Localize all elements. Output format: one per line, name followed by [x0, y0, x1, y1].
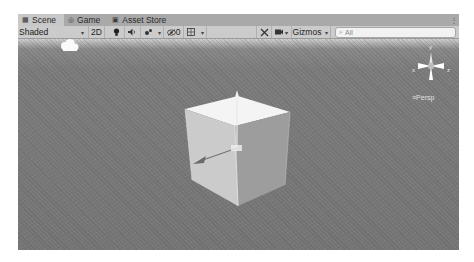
tools-button[interactable] [256, 26, 272, 38]
effects-dropdown[interactable]: ▾ [155, 26, 164, 38]
tab-game[interactable]: ◎ Game [64, 14, 108, 26]
scene-toolbar: Shaded ▾ 2D ▾ [18, 26, 459, 39]
chevron-down-icon: ▾ [325, 29, 328, 36]
grid-dropdown[interactable]: ▾ [198, 26, 207, 38]
scene-search-input[interactable]: ⌕ All [335, 27, 456, 38]
2d-toggle-button[interactable]: 2D [89, 26, 105, 38]
chevron-down-icon: ▾ [201, 29, 204, 36]
effects-icon [144, 28, 153, 36]
audio-toggle-button[interactable] [125, 26, 141, 38]
tab-asset-store[interactable]: ▣ Asset Store [108, 14, 174, 26]
search-icon: ⌕ [339, 28, 343, 36]
game-icon: ◎ [68, 16, 74, 24]
draw-mode-dropdown[interactable]: Shaded ▾ [18, 26, 89, 38]
kebab-menu-icon: ⋮ [450, 16, 458, 25]
scene-viewport[interactable]: y x z ≡Persp [18, 39, 459, 250]
tab-scene[interactable]: ▦ Scene [18, 14, 64, 26]
chevron-down-icon: ▾ [158, 29, 161, 36]
eye-slash-icon [167, 29, 176, 36]
axis-y-label: y [429, 44, 432, 50]
camera-icon [275, 29, 283, 35]
lightbulb-icon [113, 28, 120, 37]
gizmos-label: Gizmos [293, 27, 322, 37]
chevron-down-icon: ▾ [81, 29, 84, 36]
tab-bar: ▦ Scene ◎ Game ▣ Asset Store ⋮ [18, 14, 459, 26]
lighting-toggle-button[interactable] [109, 26, 125, 38]
effects-toggle-button[interactable] [141, 26, 155, 38]
gizmos-dropdown[interactable]: ▾ [322, 26, 331, 38]
axis-z-label: z [447, 67, 450, 73]
tools-icon [260, 28, 269, 37]
tab-scene-label: Scene [32, 15, 56, 25]
gizmos-button[interactable]: Gizmos [292, 26, 322, 38]
draw-mode-value: Shaded [19, 27, 48, 37]
search-placeholder: All [345, 29, 353, 36]
hidden-objects-toggle[interactable]: 0 [164, 26, 184, 38]
scene-icon: ▦ [22, 16, 29, 24]
scene-window: ▦ Scene ◎ Game ▣ Asset Store ⋮ Shaded ▾ … [18, 14, 459, 250]
tab-menu-button[interactable]: ⋮ [449, 14, 459, 26]
grid-icon [187, 28, 196, 37]
asset-store-icon: ▣ [112, 16, 119, 24]
speaker-icon [128, 28, 137, 36]
axis-x-label: x [412, 67, 415, 73]
chevron-down-icon: ▾ [285, 29, 288, 36]
tab-game-label: Game [77, 15, 100, 25]
projection-toggle[interactable]: ≡Persp [412, 94, 434, 101]
camera-settings-dropdown[interactable]: ▾ [272, 26, 292, 38]
tab-asset-store-label: Asset Store [122, 15, 166, 25]
cube-object[interactable] [18, 39, 459, 250]
grid-toggle-button[interactable] [184, 26, 198, 38]
hidden-count: 0 [176, 27, 181, 37]
orientation-gizmo[interactable]: y x z [406, 40, 456, 90]
2d-label: 2D [91, 27, 102, 37]
